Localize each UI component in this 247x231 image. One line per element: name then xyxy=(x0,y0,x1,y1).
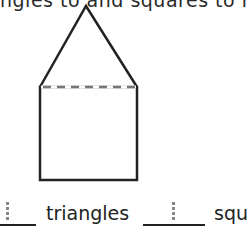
tick-mark-icon xyxy=(6,202,9,222)
answer-row: triangles squ xyxy=(0,198,247,228)
triangle-outline xyxy=(40,6,137,87)
square-outline xyxy=(40,87,137,180)
squares-label: squ xyxy=(214,200,247,226)
triangles-label: triangles xyxy=(46,200,129,226)
triangles-answer-blank[interactable] xyxy=(0,198,36,226)
house-figure xyxy=(0,0,247,231)
tick-mark-icon xyxy=(172,202,175,222)
squares-answer-blank[interactable] xyxy=(143,198,205,226)
